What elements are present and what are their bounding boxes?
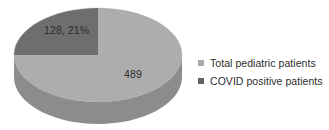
pie-chart-figure: 128, 21% 489 Total pediatric patients CO…: [0, 0, 329, 130]
pie-data-label-total-pediatric-patients: 489: [124, 68, 142, 80]
pie-graphic: [0, 0, 200, 130]
legend-item-total-pediatric-patients[interactable]: Total pediatric patients: [198, 54, 329, 72]
legend-item-covid-positive-patients[interactable]: COVID positive patients: [198, 72, 329, 90]
legend-label-covid-positive-patients: COVID positive patients: [210, 75, 323, 87]
legend-swatch-icon-covid-positive-patients: [198, 78, 204, 84]
legend-label-total-pediatric-patients: Total pediatric patients: [210, 57, 316, 69]
chart-legend: Total pediatric patients COVID positive …: [198, 54, 329, 90]
pie-svg: [0, 0, 200, 130]
legend-swatch-icon-total-pediatric-patients: [198, 60, 204, 66]
pie-data-label-covid-positive-patients: 128, 21%: [44, 24, 89, 36]
